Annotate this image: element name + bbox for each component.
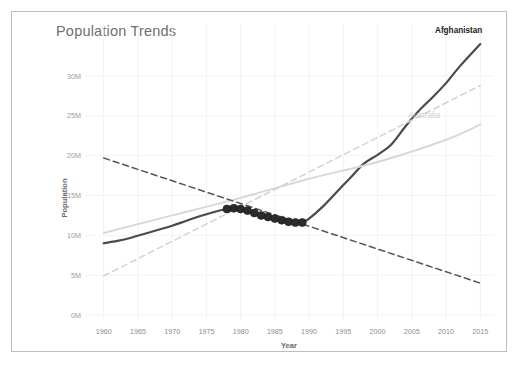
series-label-afghanistan: Afghanistan xyxy=(435,26,482,35)
y-tick-label: 0M xyxy=(71,311,81,320)
x-tick-label: 1985 xyxy=(267,327,283,336)
x-tick-label: 1975 xyxy=(198,327,214,336)
x-tick-label: 1995 xyxy=(335,327,351,336)
line-chart-plot: 0M5M10M15M20M25M30M 19601965197019751980… xyxy=(12,12,508,353)
y-axis-tick-labels: 0M5M10M15M20M25M30M xyxy=(67,72,81,320)
y-tick-label: 25M xyxy=(67,111,81,120)
x-tick-label: 1960 xyxy=(96,327,112,336)
chart-card: Population Trends 0M5M10M15M20M25M30M 19… xyxy=(11,11,507,352)
x-tick-label: 1970 xyxy=(164,327,180,336)
x-tick-label: 1990 xyxy=(301,327,317,336)
data-point-marker[interactable] xyxy=(298,219,306,227)
x-axis-title: Year xyxy=(281,341,297,350)
x-tick-label: 2000 xyxy=(370,327,386,336)
x-tick-label: 2005 xyxy=(404,327,420,336)
x-tick-label: 1965 xyxy=(130,327,146,336)
x-tick-label: 2015 xyxy=(472,327,488,336)
x-tick-label: 2010 xyxy=(438,327,454,336)
x-tick-label: 1980 xyxy=(233,327,249,336)
x-axis-tick-labels: 1960196519701975198019851990199520002005… xyxy=(96,327,489,336)
y-axis-title: Population xyxy=(60,178,69,218)
y-tick-label: 15M xyxy=(67,191,81,200)
series-lines xyxy=(104,44,481,283)
data-point-markers xyxy=(223,204,306,226)
series-line[interactable] xyxy=(104,44,481,243)
series-label-australia: Australia xyxy=(408,111,440,120)
y-tick-label: 10M xyxy=(67,231,81,240)
y-tick-label: 30M xyxy=(67,72,81,81)
series-line[interactable] xyxy=(104,125,481,233)
y-tick-label: 20M xyxy=(67,151,81,160)
series-labels: AfghanistanAustralia xyxy=(408,26,482,119)
y-tick-label: 5M xyxy=(71,271,81,280)
